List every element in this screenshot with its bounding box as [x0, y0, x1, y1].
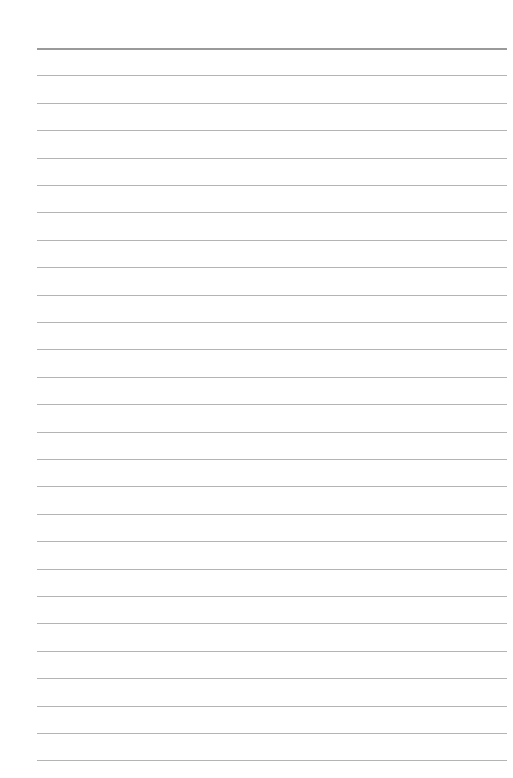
rule-line: [37, 569, 507, 570]
rule-line: [37, 706, 507, 707]
rule-line: [37, 267, 507, 268]
rule-line: [37, 349, 507, 350]
rule-line: [37, 185, 507, 186]
rule-line: [37, 623, 507, 624]
rule-line: [37, 295, 507, 296]
rule-line: [37, 240, 507, 241]
rule-line: [37, 651, 507, 652]
rule-line: [37, 760, 507, 761]
rule-line: [37, 596, 507, 597]
rule-line: [37, 432, 507, 433]
rule-line: [37, 404, 507, 405]
rule-line: [37, 130, 507, 131]
rule-line: [37, 103, 507, 104]
rule-line: [37, 212, 507, 213]
lined-paper-page: [0, 0, 513, 778]
header-rule-line: [37, 48, 507, 50]
rule-line: [37, 486, 507, 487]
rule-line: [37, 678, 507, 679]
rule-line: [37, 459, 507, 460]
rule-line: [37, 75, 507, 76]
rule-line: [37, 158, 507, 159]
rule-line: [37, 377, 507, 378]
rule-line: [37, 514, 507, 515]
rule-line: [37, 322, 507, 323]
rule-line: [37, 733, 507, 734]
rule-line: [37, 541, 507, 542]
